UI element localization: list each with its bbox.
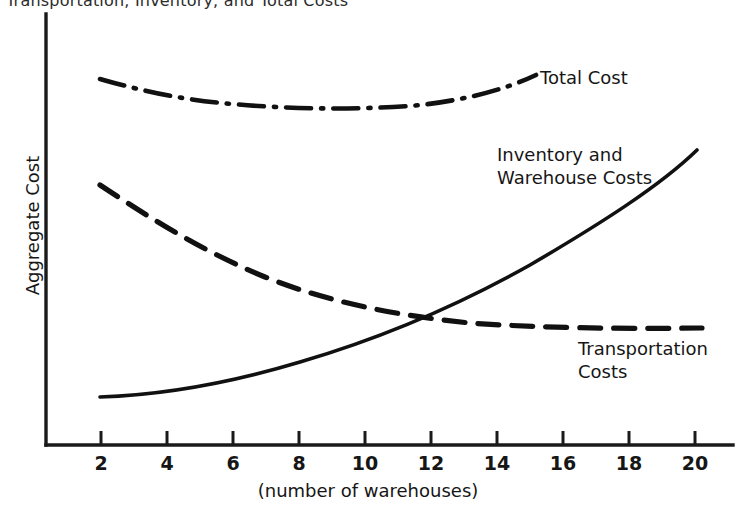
x-axis-label: (number of warehouses): [0, 480, 736, 501]
x-tick-label-4: 4: [160, 452, 173, 474]
series-line-transportation-costs: [100, 185, 702, 328]
series-label-transportation-costs: TransportationCosts: [578, 337, 708, 383]
series-label-transport-line1: Transportation: [578, 338, 708, 359]
x-tick-label-6: 6: [226, 452, 239, 474]
series-label-inventory-line1: Inventory and: [497, 144, 623, 165]
x-tick-label-10: 10: [352, 452, 378, 474]
x-axis-ticks: [101, 431, 695, 445]
series-label-total-cost: Total Cost: [540, 66, 628, 89]
x-tick-label-16: 16: [550, 452, 576, 474]
x-tick-label-12: 12: [418, 452, 444, 474]
y-axis-label: Aggregate Cost: [22, 146, 43, 306]
series-label-inventory-warehouse-costs: Inventory andWarehouse Costs: [497, 143, 652, 189]
chart-figure: Transportation, Inventory, and Total Cos…: [0, 0, 736, 512]
series-line-total-cost: [100, 75, 536, 108]
x-tick-label-2: 2: [94, 452, 107, 474]
series-label-transport-line2: Costs: [578, 361, 627, 382]
x-tick-label-18: 18: [616, 452, 642, 474]
x-tick-label-20: 20: [682, 452, 708, 474]
series-label-inventory-line2: Warehouse Costs: [497, 167, 652, 188]
x-tick-label-14: 14: [484, 452, 510, 474]
x-tick-label-8: 8: [292, 452, 305, 474]
